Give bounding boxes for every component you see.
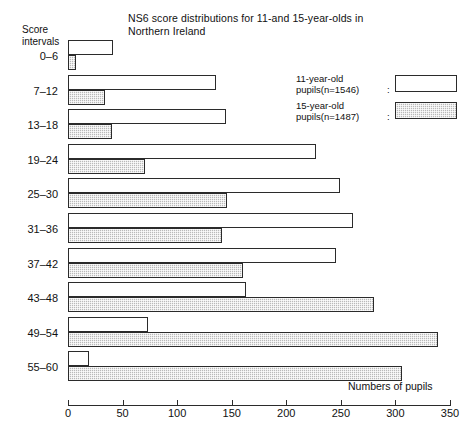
bar-group-31-36: 31–36	[68, 213, 450, 247]
bar-group-49-54: 49–54	[68, 317, 450, 351]
x-tick-300	[395, 400, 396, 406]
x-tick-label-250: 250	[332, 407, 350, 420]
bar-15-year-old-43-48	[68, 297, 374, 312]
category-label-31-36: 31–36	[0, 223, 58, 235]
y-axis-title: Score intervals	[22, 24, 59, 47]
x-tick-200	[286, 400, 287, 406]
x-tick-100	[177, 400, 178, 406]
x-axis-title: Numbers of pupils	[348, 380, 433, 392]
x-tick-label-100: 100	[168, 407, 186, 420]
x-tick-label-350: 350	[441, 407, 459, 420]
bar-11-year-old-13-18	[68, 109, 226, 124]
category-label-0-6: 0–6	[0, 50, 58, 62]
bar-group-43-48: 43–48	[68, 282, 450, 316]
x-tick-150	[232, 400, 233, 406]
category-label-43-48: 43–48	[0, 292, 58, 304]
x-tick-350	[450, 400, 451, 406]
category-label-37-42: 37–42	[0, 258, 58, 270]
category-label-49-54: 49–54	[0, 327, 58, 339]
bar-11-year-old-19-24	[68, 144, 316, 159]
category-label-7-12: 7–12	[0, 85, 58, 97]
chart-title: NS6 score distributions for 11-and 15-ye…	[128, 12, 428, 37]
bar-11-year-old-7-12	[68, 75, 216, 90]
x-axis	[68, 405, 450, 406]
x-tick-250	[341, 400, 342, 406]
bar-group-25-30: 25–30	[68, 178, 450, 212]
bar-group-19-24: 19–24	[68, 144, 450, 178]
bar-11-year-old-37-42	[68, 248, 336, 263]
bar-11-year-old-0-6	[68, 40, 113, 55]
bar-11-year-old-55-60	[68, 351, 89, 366]
bar-15-year-old-31-36	[68, 228, 222, 243]
bar-15-year-old-37-42	[68, 263, 243, 278]
y-axis-title-line1: Score	[22, 24, 59, 36]
category-label-13-18: 13–18	[0, 119, 58, 131]
x-tick-label-0: 0	[65, 407, 71, 420]
category-label-55-60: 55–60	[0, 361, 58, 373]
bar-group-7-12: 7–12	[68, 75, 450, 109]
bar-15-year-old-7-12	[68, 90, 105, 105]
bar-group-37-42: 37–42	[68, 248, 450, 282]
x-tick-label-150: 150	[223, 407, 241, 420]
bar-15-year-old-13-18	[68, 124, 112, 139]
x-tick-50	[123, 400, 124, 406]
bar-15-year-old-49-54	[68, 332, 438, 347]
x-tick-label-50: 50	[116, 407, 128, 420]
bar-11-year-old-31-36	[68, 213, 353, 228]
chart-container: NS6 score distributions for 11-and 15-ye…	[0, 0, 475, 441]
plot-area: 0–67–1213–1819–2425–3031–3637–4243–4849–…	[68, 36, 450, 388]
x-tick-label-300: 300	[386, 407, 404, 420]
category-label-19-24: 19–24	[0, 154, 58, 166]
x-tick-label-200: 200	[277, 407, 295, 420]
bar-15-year-old-0-6	[68, 55, 76, 70]
bar-15-year-old-19-24	[68, 159, 145, 174]
y-axis-title-line2: intervals	[22, 36, 59, 48]
bar-group-13-18: 13–18	[68, 109, 450, 143]
bar-11-year-old-25-30	[68, 178, 340, 193]
bar-11-year-old-49-54	[68, 317, 148, 332]
x-tick-0	[68, 400, 69, 406]
bar-group-0-6: 0–6	[68, 40, 450, 74]
chart-title-line1: NS6 score distributions for 11-and 15-ye…	[128, 12, 363, 24]
bar-11-year-old-43-48	[68, 282, 246, 297]
category-label-25-30: 25–30	[0, 188, 58, 200]
bar-15-year-old-25-30	[68, 193, 227, 208]
